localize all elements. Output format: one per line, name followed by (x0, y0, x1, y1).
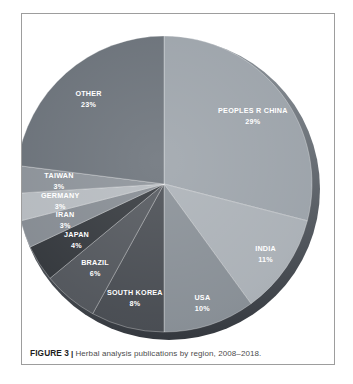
figure-panel: PEOPLES R CHINA29%INDIA11%USA10%SOUTH KO… (21, 13, 335, 365)
pie-chart: PEOPLES R CHINA29%INDIA11%USA10%SOUTH KO… (22, 14, 334, 354)
pie-slices (22, 36, 312, 332)
figure-caption-label: FIGURE 3 (30, 348, 69, 358)
page: PEOPLES R CHINA29%INDIA11%USA10%SOUTH KO… (0, 0, 353, 384)
figure-caption: FIGURE 3|Herbal analysis publications by… (30, 348, 328, 358)
pie-slice-other (22, 36, 164, 184)
figure-caption-text: Herbal analysis publications by region, … (75, 349, 261, 358)
